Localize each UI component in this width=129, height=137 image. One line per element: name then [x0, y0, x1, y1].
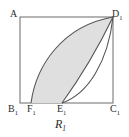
shaded-region [31, 17, 113, 103]
figure-r1: A D1 B1 F1 E1 C1 R1 [0, 0, 129, 137]
vertex-label-c1: C1 [110, 104, 120, 117]
vertex-label-d1: D1 [112, 9, 122, 22]
vertex-label-b1: B1 [8, 104, 18, 117]
figure-caption: R1 [55, 118, 66, 133]
vertex-label-e1: E1 [57, 104, 66, 117]
vertex-label-a: A [10, 9, 17, 22]
vertex-label-f1: F1 [27, 104, 36, 117]
